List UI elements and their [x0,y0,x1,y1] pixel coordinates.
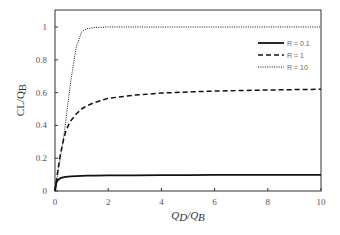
y-tick-label: 0.8 [36,55,48,65]
x-tick-label: 4 [159,197,164,207]
legend-label: R = 1 [287,52,304,59]
series-lines [55,27,321,191]
legend: R = 0.1R = 1R = 10 [258,40,310,71]
legend-label: R = 10 [287,64,308,71]
x-tick-label: 2 [106,197,111,207]
y-tick-label: 0.2 [36,153,47,163]
chart-canvas: 00.20.40.60.81 0246810 R = 0.1R = 1R = 1… [0,0,340,235]
y-tick-label: 0 [43,186,48,196]
y-tick-label: 0.4 [36,120,48,130]
series-line-dotted [55,27,321,191]
y-tick-label: 0.6 [36,88,48,98]
x-tick-label: 10 [317,197,327,207]
y-tick-label: 1 [43,22,48,32]
x-axis-label: QD/QB [171,209,205,223]
x-tick-label: 0 [53,197,58,207]
plot-frame [55,10,321,191]
series-line-solid [55,175,321,191]
legend-label: R = 0.1 [287,40,310,47]
y-axis-label: CL/QB [14,84,28,116]
x-tick-label: 6 [212,197,217,207]
x-tick-label: 8 [266,197,271,207]
